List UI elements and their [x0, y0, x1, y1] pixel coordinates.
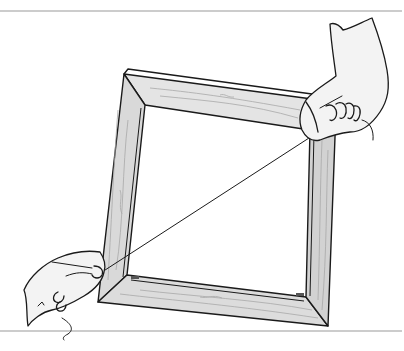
illustration-canvas: Hands stretching a string diagonally acr…	[0, 0, 404, 351]
frame-illustration	[0, 0, 404, 351]
right-hand	[300, 18, 388, 141]
frame-bottom-rail	[98, 275, 328, 326]
left-hand	[24, 251, 105, 340]
